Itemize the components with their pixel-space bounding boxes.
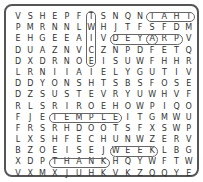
letter-cell[interactable]: E	[85, 56, 97, 67]
letter-cell[interactable]: H	[97, 134, 109, 145]
letter-cell[interactable]: Q	[158, 168, 170, 179]
letter-cell[interactable]: F	[146, 78, 158, 89]
letter-cell[interactable]: D	[12, 89, 24, 100]
letter-cell[interactable]: O	[49, 78, 61, 89]
letter-cell[interactable]: O	[85, 101, 97, 112]
letter-cell[interactable]: N	[61, 56, 73, 67]
letter-cell[interactable]: X	[24, 56, 36, 67]
letter-cell[interactable]: R	[183, 56, 195, 67]
letter-cell[interactable]: S	[134, 78, 146, 89]
letter-cell[interactable]: T	[49, 156, 61, 167]
letter-cell[interactable]: H	[158, 89, 170, 100]
letter-cell[interactable]: M	[24, 22, 36, 33]
letter-cell[interactable]: Z	[49, 45, 61, 56]
letter-cell[interactable]: L	[158, 145, 170, 156]
letter-cell[interactable]: B	[12, 145, 24, 156]
letter-cell[interactable]: F	[146, 45, 158, 56]
letter-cell[interactable]: S	[158, 123, 170, 134]
letter-cell[interactable]: P	[122, 45, 134, 56]
letter-cell[interactable]: T	[73, 89, 85, 100]
letter-cell[interactable]: R	[24, 123, 36, 134]
letter-cell[interactable]: W	[134, 101, 146, 112]
letter-cell[interactable]: E	[134, 145, 146, 156]
letter-cell[interactable]: S	[73, 78, 85, 89]
letter-cell[interactable]: L	[97, 112, 109, 123]
letter-cell[interactable]: F	[12, 112, 24, 123]
letter-cell[interactable]: I	[61, 101, 73, 112]
letter-cell[interactable]: D	[110, 33, 122, 44]
letter-cell[interactable]: H	[110, 156, 122, 167]
letter-cell[interactable]: I	[158, 101, 170, 112]
letter-cell[interactable]: S	[36, 134, 48, 145]
letter-cell[interactable]: Z	[134, 168, 146, 179]
letter-cell[interactable]: Z	[24, 145, 36, 156]
letter-cell[interactable]: E	[158, 45, 170, 56]
letter-cell[interactable]: T	[134, 112, 146, 123]
letter-cell[interactable]: S	[146, 22, 158, 33]
letter-cell[interactable]: H	[61, 156, 73, 167]
letter-cell[interactable]: U	[73, 168, 85, 179]
letter-cell[interactable]: S	[110, 78, 122, 89]
letter-cell[interactable]: J	[61, 168, 73, 179]
letter-cell[interactable]: V	[183, 134, 195, 145]
letter-cell[interactable]: U	[24, 45, 36, 56]
letter-cell[interactable]: E	[97, 101, 109, 112]
letter-cell[interactable]: Q	[146, 168, 158, 179]
letter-cell[interactable]: H	[85, 78, 97, 89]
letter-cell[interactable]: E	[12, 33, 24, 44]
letter-cell[interactable]: N	[122, 134, 134, 145]
letter-cell[interactable]: F	[158, 156, 170, 167]
letter-cell[interactable]: R	[110, 89, 122, 100]
letter-cell[interactable]: Y	[36, 78, 48, 89]
letter-cell[interactable]: K	[97, 156, 109, 167]
letter-cell[interactable]: Y	[134, 33, 146, 44]
letter-cell[interactable]: O	[36, 145, 48, 156]
letter-cell[interactable]: U	[134, 89, 146, 100]
letter-cell[interactable]: W	[134, 56, 146, 67]
letter-cell[interactable]: C	[85, 134, 97, 145]
letter-cell[interactable]: E	[61, 33, 73, 44]
letter-cell[interactable]: S	[36, 123, 48, 134]
letter-cell[interactable]: X	[12, 156, 24, 167]
letter-cell[interactable]: E	[36, 112, 48, 123]
letter-cell[interactable]: S	[24, 11, 36, 22]
letter-cell[interactable]: P	[61, 11, 73, 22]
letter-cell[interactable]: F	[183, 89, 195, 100]
letter-cell[interactable]: X	[24, 134, 36, 145]
letter-cell[interactable]: B	[122, 78, 134, 89]
letter-cell[interactable]: W	[170, 123, 182, 134]
letter-cell[interactable]: E	[122, 145, 134, 156]
letter-cell[interactable]: Y	[122, 67, 134, 78]
letter-cell[interactable]: V	[12, 11, 24, 22]
letter-cell[interactable]: H	[158, 56, 170, 67]
letter-cell[interactable]: W	[134, 134, 146, 145]
letter-cell[interactable]: D	[12, 45, 24, 56]
letter-cell[interactable]: I	[85, 67, 97, 78]
letter-cell[interactable]: E	[122, 33, 134, 44]
letter-cell[interactable]: O	[97, 123, 109, 134]
letter-cell[interactable]: T	[110, 123, 122, 134]
letter-cell[interactable]: I	[85, 33, 97, 44]
letter-cell[interactable]: Q	[170, 101, 182, 112]
letter-cell[interactable]: M	[73, 112, 85, 123]
letter-cell[interactable]: A	[146, 33, 158, 44]
letter-cell[interactable]: E	[183, 78, 195, 89]
letter-cell[interactable]: K	[97, 168, 109, 179]
letter-cell[interactable]: V	[97, 89, 109, 100]
letter-cell[interactable]: V	[97, 33, 109, 44]
letter-cell[interactable]: P	[170, 33, 182, 44]
letter-cell[interactable]: S	[36, 89, 48, 100]
letter-cell[interactable]: P	[85, 112, 97, 123]
letter-cell[interactable]: T	[85, 11, 97, 22]
letter-cell[interactable]: T	[97, 78, 109, 89]
letter-cell[interactable]: D	[12, 56, 24, 67]
letter-cell[interactable]: E	[61, 112, 73, 123]
letter-cell[interactable]: D	[73, 123, 85, 134]
letter-cell[interactable]: F	[61, 134, 73, 145]
letter-cell[interactable]: X	[24, 168, 36, 179]
letter-cell[interactable]: R	[36, 22, 48, 33]
letter-cell[interactable]: N	[61, 22, 73, 33]
letter-cell[interactable]: X	[49, 168, 61, 179]
letter-cell[interactable]: L	[110, 67, 122, 78]
letter-cell[interactable]: W	[110, 145, 122, 156]
